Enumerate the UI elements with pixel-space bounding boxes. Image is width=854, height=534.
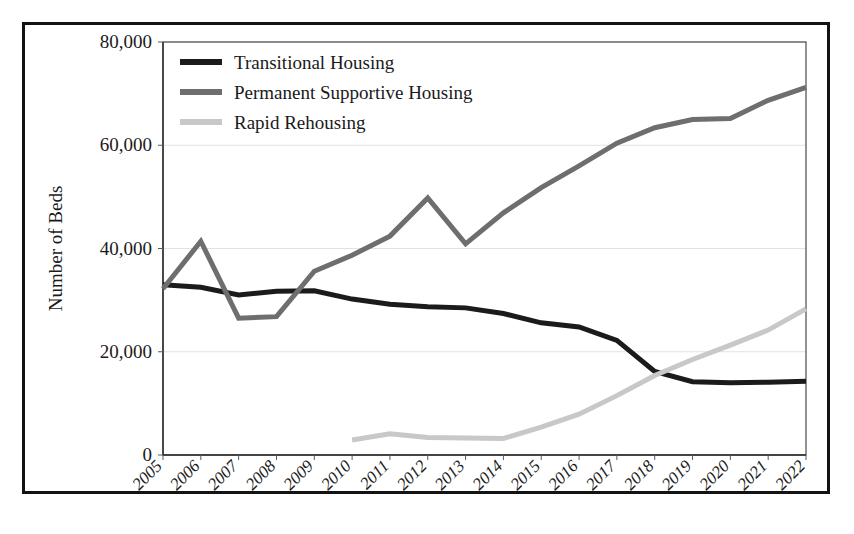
x-tick-label: 2007 — [204, 455, 243, 494]
x-tick-label: 2006 — [166, 456, 204, 494]
x-tick-label: 2012 — [393, 456, 431, 494]
x-tick-label: 2020 — [696, 456, 734, 494]
x-tick-label: 2009 — [280, 456, 318, 494]
legend-label-0: Transitional Housing — [234, 52, 395, 73]
chart-legend: Transitional HousingPermanent Supportive… — [180, 52, 473, 133]
x-tick-labels-group: 2005200620072008200920102011201220132014… — [128, 455, 809, 494]
legend-label-2: Rapid Rehousing — [234, 112, 366, 133]
x-tick-label: 2013 — [431, 456, 468, 493]
x-tick-label: 2019 — [658, 456, 696, 494]
x-tick-label: 2010 — [317, 456, 355, 494]
y-tick-label: 40,000 — [100, 238, 152, 259]
y-tick-label: 60,000 — [100, 134, 152, 155]
x-tick-label: 2015 — [507, 456, 544, 493]
x-tick-label: 2021 — [734, 456, 771, 493]
y-tick-labels-group: 80,00060,00040,00020,0000 — [100, 31, 152, 465]
y-tick-label: 80,000 — [100, 31, 152, 52]
x-tick-label: 2016 — [544, 456, 582, 494]
x-tick-label: 2018 — [620, 456, 658, 494]
line-chart: 80,00060,00040,00020,0000 20052006200720… — [0, 0, 854, 534]
y-tick-label: 20,000 — [100, 341, 152, 362]
x-tick-label: 2008 — [242, 456, 280, 494]
legend-label-1: Permanent Supportive Housing — [234, 82, 473, 103]
series-line-0 — [163, 285, 806, 383]
x-tick-label: 2014 — [469, 456, 507, 494]
figure-container: 80,00060,00040,00020,0000 20052006200720… — [0, 0, 854, 534]
tickmarks-group — [158, 42, 806, 460]
x-tick-label: 2005 — [128, 456, 165, 493]
data-series-group — [163, 87, 806, 440]
x-tick-label: 2011 — [356, 456, 393, 493]
y-axis-title: Number of Beds — [45, 186, 66, 312]
x-tick-label: 2022 — [771, 456, 809, 494]
x-tick-label: 2017 — [582, 455, 621, 494]
y-axis-title-group: Number of Beds — [45, 186, 66, 312]
